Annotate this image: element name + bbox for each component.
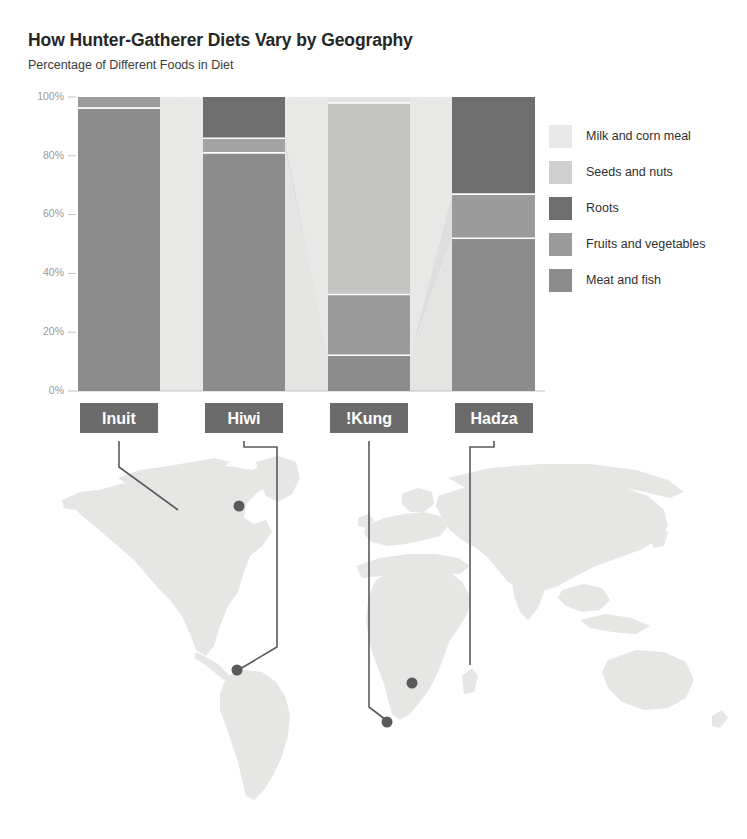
map-landmass-australia xyxy=(602,650,694,710)
category-label-hiwi[interactable]: Hiwi xyxy=(205,403,283,433)
category-label-hiwi-text: Hiwi xyxy=(228,410,261,427)
legend-swatch-icon-milk-and-corn-meal xyxy=(549,125,572,148)
kung-location-dot xyxy=(382,717,393,728)
legend-swatch-icon-seeds-and-nuts xyxy=(549,161,572,184)
y-tick-label-20: 20% xyxy=(43,325,64,337)
legend-item-roots[interactable]: Roots xyxy=(549,190,739,226)
map-landmass-europe xyxy=(364,512,448,546)
y-tick-label-80: 80% xyxy=(43,149,64,161)
world-map xyxy=(62,456,728,800)
inuit-location-dot xyxy=(234,501,245,512)
y-tick-label-100: 100% xyxy=(37,90,64,102)
category-label-kung-text: !Kung xyxy=(346,410,392,427)
map-landmass-new-zealand xyxy=(712,710,728,728)
legend-label-meat-and-fish: Meat and fish xyxy=(586,273,661,287)
legend-swatch-icon-meat-and-fish xyxy=(549,269,572,292)
map-landmass-greenland xyxy=(256,456,300,502)
bar-segment-hiwi-meat-and-fish[interactable] xyxy=(203,153,285,391)
map-landmass-scandinavia xyxy=(402,488,434,512)
chart-legend: Milk and corn meal Seeds and nuts Roots … xyxy=(549,118,739,298)
category-label-hadza[interactable]: Hadza xyxy=(455,403,533,433)
legend-swatch-icon-fruits-and-vegetables xyxy=(549,233,572,256)
legend-item-fruits-and-vegetables[interactable]: Fruits and vegetables xyxy=(549,226,739,262)
map-landmass-southeast-asia xyxy=(558,584,610,612)
bar-segment-hiwi-seeds-and-nuts[interactable] xyxy=(203,138,285,153)
bar-segment-hadza-roots[interactable] xyxy=(452,97,535,194)
map-landmass-south-america xyxy=(220,670,290,800)
y-tick-label-40: 40% xyxy=(43,266,64,278)
ribbon-inuit-hiwi-top xyxy=(160,97,203,391)
bar-stack-inuit[interactable] xyxy=(78,97,160,391)
bar-segment-inuit-meat-and-fish[interactable] xyxy=(78,109,160,391)
legend-swatch-icon-roots xyxy=(549,197,572,220)
map-landmass-north-america xyxy=(72,464,282,656)
category-label-hadza-text: Hadza xyxy=(470,410,517,427)
y-tick-label-60: 60% xyxy=(43,207,64,219)
bar-stack-kung[interactable] xyxy=(328,97,410,391)
map-landmass-africa xyxy=(366,566,470,720)
legend-label-roots: Roots xyxy=(586,201,619,215)
legend-item-milk-and-corn-meal[interactable]: Milk and corn meal xyxy=(549,118,739,154)
bar-stack-hiwi[interactable] xyxy=(203,97,285,391)
map-landmass-india xyxy=(512,574,544,620)
bar-segment-hiwi-roots[interactable] xyxy=(203,97,285,138)
legend-label-milk-and-corn-meal: Milk and corn meal xyxy=(586,129,691,143)
category-label-kung[interactable]: !Kung xyxy=(330,403,408,433)
map-landmass-indonesia xyxy=(580,614,650,634)
legend-item-seeds-and-nuts[interactable]: Seeds and nuts xyxy=(549,154,739,190)
bar-segment-kung-meat-and-fish[interactable] xyxy=(328,355,410,391)
bar-stack-hadza[interactable] xyxy=(452,97,535,391)
bar-segment-hadza-meat-and-fish[interactable] xyxy=(452,238,535,391)
bar-segment-kung-fruits-and-vegetables[interactable] xyxy=(328,294,410,355)
chart-page: How Hunter-Gatherer Diets Vary by Geogra… xyxy=(0,0,747,839)
bar-segment-kung-milk-and-corn-meal[interactable] xyxy=(328,97,410,103)
category-label-inuit[interactable]: Inuit xyxy=(80,403,158,433)
bar-segment-kung-seeds-and-nuts[interactable] xyxy=(328,103,410,294)
map-landmass-central-america xyxy=(194,652,232,680)
map-landmass-madagascar xyxy=(462,668,478,694)
bar-segment-hadza-fruits-and-vegetables[interactable] xyxy=(452,194,535,238)
category-label-inuit-text: Inuit xyxy=(102,410,136,427)
category-labels: Inuit Hiwi !Kung Hadza xyxy=(80,403,533,433)
legend-item-meat-and-fish[interactable]: Meat and fish xyxy=(549,262,739,298)
y-tick-label-0: 0% xyxy=(49,384,64,396)
hadza-location-dot xyxy=(407,678,418,689)
bar-segment-inuit-milk-and-corn-meal[interactable] xyxy=(78,97,160,107)
hiwi-location-dot xyxy=(232,665,243,676)
legend-label-fruits-and-vegetables: Fruits and vegetables xyxy=(586,237,706,251)
legend-label-seeds-and-nuts: Seeds and nuts xyxy=(586,165,673,179)
